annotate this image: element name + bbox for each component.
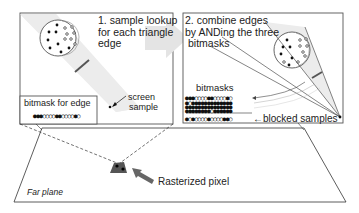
far-plane xyxy=(14,128,346,202)
left-bitmask-label: bitmask for edge xyxy=(24,99,91,109)
left-panel-title: 1. sample lookup for each triangle edge xyxy=(98,15,177,50)
blocked-samples-text: blocked samples xyxy=(263,113,337,124)
bitmask-row-4: ●●●●●●●●○●●●●●● xyxy=(185,108,232,114)
far-plane-label: Far plane xyxy=(27,188,63,197)
screen-sample-label: screen sample xyxy=(128,93,158,113)
left-title-line-1: 1. sample lookup xyxy=(98,15,177,27)
rasterized-pixel-label: Rasterized pixel xyxy=(158,176,229,187)
left-bitmask-row: ●●●○○○○●●○○○○●○ xyxy=(33,113,80,119)
screen-sample-point xyxy=(109,106,112,109)
bitmasks-label: bitmasks xyxy=(196,83,233,93)
right-title-line-1: 2. combine edges xyxy=(185,15,279,27)
right-panel-title: 2. combine edges by ANDing the three bit… xyxy=(185,15,279,50)
arrow-left-icon: ← xyxy=(253,113,263,124)
right-title-line-3: bitmasks xyxy=(185,38,279,50)
screen-sample-line-2: sample xyxy=(128,103,158,113)
left-title-line-3: edge xyxy=(98,38,177,50)
blocked-result-row: ●○●○○○○●○○○○●●○ xyxy=(185,116,232,122)
blocked-samples-label: ←blocked samples xyxy=(253,113,337,124)
